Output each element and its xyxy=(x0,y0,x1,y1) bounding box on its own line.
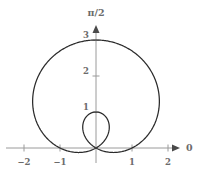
y-tick-label-2: 2 xyxy=(83,66,89,76)
y-tick-label-3: 3 xyxy=(83,30,89,40)
vertical-axis-label: π/2 xyxy=(87,7,104,18)
plot-canvas: −2 −1 1 2 1 2 3 π/2 0 xyxy=(0,0,202,175)
x-tick-label-minus1: −1 xyxy=(53,157,66,167)
y-tick-label-1: 1 xyxy=(83,102,89,112)
x-tick-label-2: 2 xyxy=(165,157,171,167)
vertical-axis-group xyxy=(93,25,100,163)
polar-plot-figure: −2 −1 1 2 1 2 3 π/2 0 xyxy=(0,0,202,175)
horizontal-axis-arrow-icon xyxy=(172,145,180,152)
x-tick-label-minus2: −2 xyxy=(17,157,30,167)
horizontal-axis-label: 0 xyxy=(186,142,193,153)
vertical-axis-arrow-icon xyxy=(93,25,100,33)
x-tick-label-1: 1 xyxy=(129,157,135,167)
